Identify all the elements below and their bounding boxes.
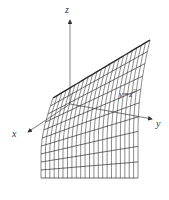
z-axis-label: z <box>65 5 69 15</box>
parabolic-cylinder-figure <box>0 0 169 200</box>
equation-exponent: 2 <box>133 88 136 94</box>
x-axis-label: x <box>12 129 16 139</box>
equation-label: y=z2 <box>119 88 136 99</box>
y-axis-label: y <box>156 119 160 129</box>
y-axis <box>70 104 152 119</box>
equation-text: y=z <box>119 89 133 99</box>
